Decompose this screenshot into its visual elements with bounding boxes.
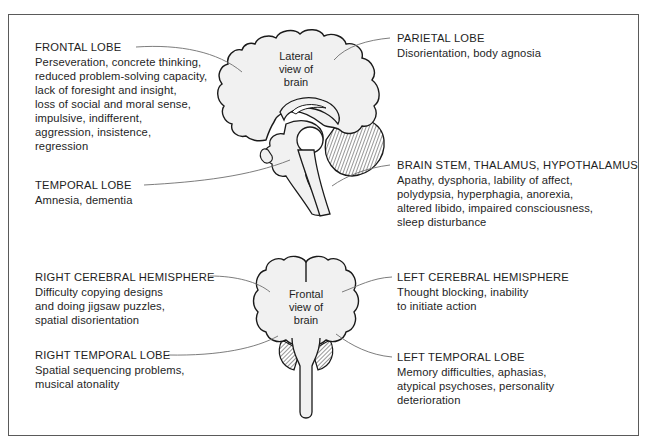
leader-temporal-lobe [144, 160, 290, 185]
left-temporal-lobe-line: Memory difficulties, aphasias, [397, 365, 554, 379]
brain-stem-line: Apathy, dysphoria, lability of affect, [397, 173, 638, 187]
frontal-lobe-title: FRONTAL LOBE [35, 40, 207, 54]
frontal-lobe-line: Perseveration, concrete thinking, [35, 55, 207, 69]
left-cerebral-hemisphere-block: LEFT CEREBRAL HEMISPHERE Thought blockin… [397, 270, 569, 313]
right-cerebral-hemisphere-line: spatial disorientation [35, 313, 215, 327]
temporal-lobe-line: Amnesia, dementia [35, 193, 132, 207]
left-cerebral-hemisphere-line: Thought blocking, inability [397, 285, 569, 299]
parietal-lobe-block: PARIETAL LOBE Disorientation, body agnos… [397, 31, 541, 60]
brain-stem-line: altered libido, impaired consciousness, [397, 201, 638, 215]
temporal-lobe-title: TEMPORAL LOBE [35, 178, 132, 192]
brain-stem-line: sleep disturbance [397, 215, 638, 229]
left-temporal-lobe-line: deterioration [397, 393, 554, 407]
frontal-label-line: view of [276, 301, 336, 314]
left-temporal-lobe-block: LEFT TEMPORAL LOBE Memory difficulties, … [397, 350, 554, 407]
frontal-brain [254, 256, 359, 418]
frontal-lobe-line: aggression, insistence, [35, 125, 207, 139]
right-cerebral-hemisphere-block: RIGHT CEREBRAL HEMISPHERE Difficulty cop… [35, 270, 215, 327]
right-cerebral-hemisphere-line: and doing jigsaw puzzles, [35, 299, 215, 313]
right-temporal-lobe-title: RIGHT TEMPORAL LOBE [35, 348, 185, 362]
parietal-lobe-title: PARIETAL LOBE [397, 31, 541, 45]
lateral-label-line: view of [266, 63, 326, 76]
frontal-label-line: Frontal [276, 288, 336, 301]
frontal-lobe-block: FRONTAL LOBE Perseveration, concrete thi… [35, 40, 207, 153]
frontal-lobe-line: impulsive, indifferent, [35, 111, 207, 125]
frontal-label-line: brain [276, 314, 336, 327]
left-cerebral-hemisphere-title: LEFT CEREBRAL HEMISPHERE [397, 270, 569, 284]
left-temporal-lobe-title: LEFT TEMPORAL LOBE [397, 350, 554, 364]
lateral-label-line: Lateral [266, 50, 326, 63]
left-temporal-lobe-line: atypical psychoses, personality [397, 379, 554, 393]
brain-stem-title: BRAIN STEM, THALAMUS, HYPOTHALAMUS [397, 158, 638, 172]
right-temporal-lobe-block: RIGHT TEMPORAL LOBE Spatial sequencing p… [35, 348, 185, 391]
frontal-view-label: Frontal view of brain [276, 288, 336, 327]
frontal-lobe-line: lack of foresight and insight, [35, 83, 207, 97]
leader-left-temporal [336, 334, 392, 357]
temporal-lobe-block: TEMPORAL LOBE Amnesia, dementia [35, 178, 132, 207]
parietal-lobe-line: Disorientation, body agnosia [397, 46, 541, 60]
brain-stem-block: BRAIN STEM, THALAMUS, HYPOTHALAMUS Apath… [397, 158, 638, 229]
lateral-view-label: Lateral view of brain [266, 50, 326, 89]
lateral-label-line: brain [266, 76, 326, 89]
frontal-lobe-line: loss of social and moral sense, [35, 97, 207, 111]
right-cerebral-hemisphere-title: RIGHT CEREBRAL HEMISPHERE [35, 270, 215, 284]
brain-stem-line: polydypsia, hyperphagia, anorexia, [397, 187, 638, 201]
right-temporal-lobe-line: musical atonality [35, 377, 185, 391]
right-temporal-lobe-line: Spatial sequencing problems, [35, 363, 185, 377]
frontal-lobe-line: regression [35, 139, 207, 153]
right-cerebral-hemisphere-line: Difficulty copying designs [35, 285, 215, 299]
frontal-lobe-line: reduced problem-solving capacity, [35, 69, 207, 83]
left-cerebral-hemisphere-line: to initiate action [397, 299, 569, 313]
